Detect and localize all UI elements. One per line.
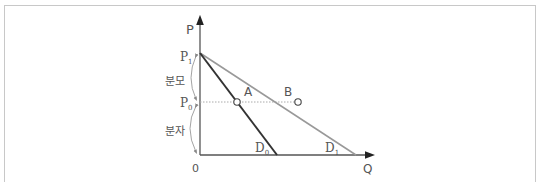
point-label-a: A — [244, 85, 253, 99]
point-a — [234, 99, 240, 105]
y-axis-label: P — [186, 22, 194, 37]
point-label-b: B — [284, 85, 292, 99]
bracket-numerator — [190, 106, 196, 152]
point-b — [295, 99, 301, 105]
demand-curve-d1 — [200, 53, 356, 155]
origin-label: 0 — [192, 162, 199, 175]
x-axis-label: Q — [363, 162, 372, 176]
curve-label-d0: D0 — [255, 141, 269, 157]
demand-diagram: P Q 0 P1 P0 분모 분자 D0 D1 A B — [0, 0, 541, 182]
bracket-label-numerator: 분자 — [165, 125, 185, 138]
price-label-p1: P1 — [180, 50, 193, 66]
bracket-label-denominator: 분모 — [165, 75, 185, 88]
price-label-p0: P0 — [180, 96, 193, 112]
